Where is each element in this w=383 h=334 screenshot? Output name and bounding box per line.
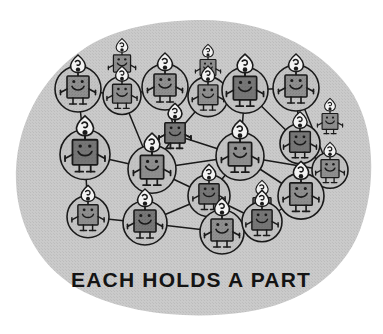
candle-body xyxy=(322,114,338,130)
candle-body xyxy=(140,155,163,178)
candle-body xyxy=(154,74,176,96)
candle-body xyxy=(113,84,132,103)
candle-body xyxy=(72,140,97,165)
candle-body xyxy=(321,160,339,178)
candle-body xyxy=(233,76,256,99)
candle-body xyxy=(165,123,185,143)
candle-body xyxy=(134,210,156,232)
candle-body xyxy=(252,210,272,230)
candle-body xyxy=(285,75,307,97)
candle-body xyxy=(78,205,98,225)
candle-body xyxy=(228,142,251,165)
candle-body xyxy=(290,183,312,205)
candle-body xyxy=(198,85,218,105)
candle-body xyxy=(290,132,311,153)
candle-body xyxy=(211,219,233,241)
caption-text: EACH HOLDS A PART xyxy=(71,268,311,291)
each-holds-a-part-illustration: EACH HOLDS A PART xyxy=(0,0,383,334)
illustration-canvas: EACH HOLDS A PART xyxy=(0,0,383,334)
candle-body xyxy=(67,76,89,98)
candle-body xyxy=(199,184,219,204)
